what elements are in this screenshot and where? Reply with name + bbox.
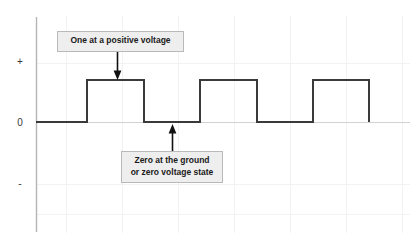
callout-one-line1: One at a positive voltage	[70, 35, 170, 45]
callout-zero-line1: Zero at the ground	[134, 155, 209, 165]
callout-one-positive-voltage: One at a positive voltage	[57, 31, 184, 52]
y-axis-label-zero: 0	[13, 118, 27, 128]
y-axis-label-negative: -	[13, 179, 27, 189]
callout-zero-ground-state: Zero at the ground or zero voltage state	[121, 151, 223, 183]
down-arrow-icon	[114, 51, 122, 80]
callout-zero-line2: or zero voltage state	[129, 167, 215, 179]
square-wave-trace	[36, 80, 369, 122]
y-axis-label-positive: +	[13, 57, 27, 67]
digital-waveform-figure: + 0 - One at a positive voltage Zero at …	[0, 0, 410, 246]
up-arrow-icon	[169, 124, 177, 151]
